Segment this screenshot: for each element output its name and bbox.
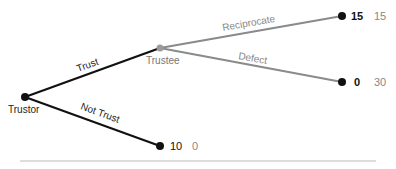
trustee-node [157,45,164,52]
trustor-label: Trustor [8,104,40,115]
trust-game-tree: Trustor Trustee Trust Not Trust Reciproc… [0,0,396,169]
not-trust-label: Not Trust [79,101,121,125]
trustor-node [21,93,29,101]
defect-trustee-payoff: 30 [374,76,386,88]
reciprocate-trustor-payoff: 15 [351,10,363,22]
not-trust-trustor-payoff: 10 [170,140,182,152]
terminal-node-not-trust [156,142,164,150]
terminal-node-reciprocate [338,12,346,20]
terminal-node-defect [338,78,346,86]
reciprocate-trustee-payoff: 15 [374,10,386,22]
not-trust-trustee-payoff: 0 [192,140,198,152]
trustee-label: Trustee [146,55,180,66]
branch-trust [25,48,160,97]
defect-trustor-payoff: 0 [354,76,360,88]
